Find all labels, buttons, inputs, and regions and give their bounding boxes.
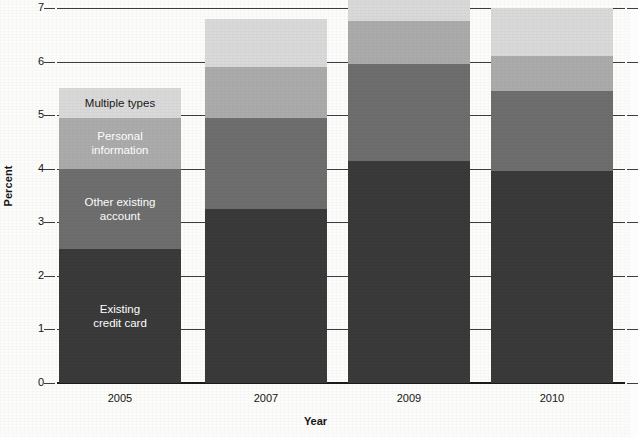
y-tick-mark-left-7: [44, 8, 55, 9]
y-tick-mark-right-3: [627, 222, 638, 223]
y-tick-mark-right-4: [627, 169, 638, 170]
y-tick-mark-left-4: [44, 169, 55, 170]
x-tick-label-2005: 2005: [80, 392, 160, 404]
y-tick-mark-left-3: [44, 222, 55, 223]
bar-segment-2007-1[interactable]: [205, 118, 327, 209]
y-tick-mark-left-6: [44, 62, 55, 63]
y-tick-mark-right-0: [627, 383, 638, 384]
segment-label-2: Personalinformation: [59, 129, 181, 157]
y-tick-mark-left-0: [44, 383, 55, 384]
y-tick-mark-right-7: [627, 8, 638, 9]
bar-segment-2005-0[interactable]: Existingcredit card: [59, 249, 181, 383]
y-tick-label-3: 3: [20, 215, 44, 227]
bar-segment-2005-2[interactable]: Personalinformation: [59, 118, 181, 169]
bar-segment-2009-3[interactable]: [348, 0, 470, 21]
bar-2010[interactable]: [491, 8, 613, 383]
y-tick-label-2: 2: [20, 269, 44, 281]
y-tick-mark-left-2: [44, 276, 55, 277]
segment-label-0: Existingcredit card: [59, 302, 181, 330]
bar-segment-2010-0[interactable]: [491, 171, 613, 383]
bar-segment-2007-2[interactable]: [205, 67, 327, 118]
y-tick-label-7: 7: [20, 1, 44, 13]
y-tick-label-6: 6: [20, 55, 44, 67]
x-axis-title: Year: [0, 415, 631, 427]
bar-segment-2009-1[interactable]: [348, 64, 470, 160]
x-tick-label-2009: 2009: [369, 392, 449, 404]
bar-segment-2009-2[interactable]: [348, 21, 470, 64]
segment-label-1: Other existingaccount: [59, 195, 181, 223]
x-tick-label-2007: 2007: [226, 392, 306, 404]
bar-segment-2010-2[interactable]: [491, 56, 613, 91]
segment-label-3: Multiple types: [59, 96, 181, 110]
y-tick-label-1: 1: [20, 322, 44, 334]
bar-segment-2007-3[interactable]: [205, 19, 327, 67]
y-tick-mark-right-6: [627, 62, 638, 63]
bar-segment-2010-3[interactable]: [491, 8, 613, 56]
y-tick-mark-left-1: [44, 329, 55, 330]
y-tick-label-5: 5: [20, 108, 44, 120]
y-tick-mark-right-5: [627, 115, 638, 116]
bar-2005[interactable]: Existingcredit cardOther existingaccount…: [59, 8, 181, 383]
y-tick-label-0: 0: [20, 376, 44, 388]
x-tick-label-2010: 2010: [512, 392, 592, 404]
bar-segment-2005-1[interactable]: Other existingaccount: [59, 169, 181, 249]
bar-segment-2005-3[interactable]: Multiple types: [59, 88, 181, 117]
y-tick-mark-left-5: [44, 115, 55, 116]
bar-segment-2010-1[interactable]: [491, 91, 613, 171]
y-tick-mark-right-1: [627, 329, 638, 330]
y-axis-title: Percent: [2, 156, 14, 216]
bar-2007[interactable]: [205, 8, 327, 383]
plot-area: Existingcredit cardOther existingaccount…: [57, 8, 625, 383]
bar-segment-2009-0[interactable]: [348, 161, 470, 383]
bar-2009[interactable]: [348, 8, 470, 383]
bar-segment-2007-0[interactable]: [205, 209, 327, 383]
y-tick-label-4: 4: [20, 162, 44, 174]
y-tick-mark-right-2: [627, 276, 638, 277]
